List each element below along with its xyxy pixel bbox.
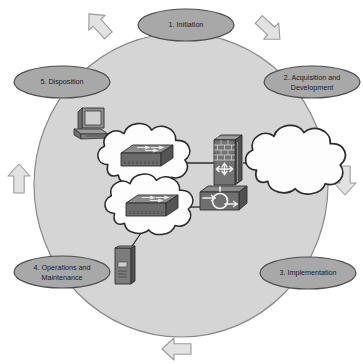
phase-implementation-label: 3. Implementation [279,268,336,277]
phase-operations-label-line1: 4. Operations and [33,263,90,272]
flow-arrow-top-right [251,11,287,47]
flow-arrow-left [8,164,30,193]
phase-operations[interactable]: 4. Operations and Maintenance [14,256,110,288]
firewall-icon [214,135,242,185]
phase-acquisition[interactable]: 2. Acquisition and Development [264,66,360,98]
phase-acquisition-label-line2: Development [291,83,333,92]
flow-arrow-bottom [162,338,191,360]
server-icon [115,246,135,284]
phase-disposition[interactable]: 5. Disposition [14,66,110,98]
phase-initiation[interactable]: 1. Initiation [138,9,234,41]
phase-acquisition-label-line1: 2. Acquisition and [284,73,340,82]
workstation-icon [74,108,108,139]
phase-implementation[interactable]: 3. Implementation [260,257,356,289]
switch-upper-icon [121,145,173,166]
switch-lower-icon [126,195,178,216]
phase-initiation-label: 1. Initiation [169,20,204,29]
phase-operations-label-line2: Maintenance [41,273,82,282]
sdlc-cycle-diagram: 1. Initiation 2. Acquisition and Develop… [0,0,363,364]
diagram-canvas: 1. Initiation 2. Acquisition and Develop… [0,0,363,364]
router-icon [200,186,247,210]
flow-arrow-top-left [81,6,117,42]
phase-disposition-label: 5. Disposition [40,77,83,86]
